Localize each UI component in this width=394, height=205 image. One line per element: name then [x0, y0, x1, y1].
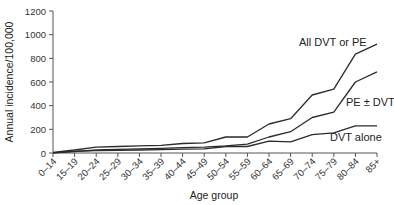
- y-tick-label: 400: [30, 100, 46, 111]
- x-tick-label: 45–49: [183, 156, 209, 182]
- series-line-all-dvt-or-pe: [53, 44, 377, 152]
- x-tick-label: 85+: [363, 155, 382, 174]
- x-tick-label: 75–79: [313, 156, 339, 182]
- x-tick-label: 20–24: [75, 156, 101, 182]
- series-lines: [53, 44, 377, 153]
- series-label-pe: PE ± DVT: [346, 96, 394, 108]
- series-label-all: All DVT or PE: [299, 36, 367, 48]
- y-tick-label: 0: [41, 148, 46, 159]
- x-tick-label: 55–59: [226, 156, 252, 182]
- x-axis: 0–1415–1920–2425–2930–3435–3940–4445–495…: [36, 153, 383, 182]
- x-tick-label: 65–69: [270, 156, 296, 182]
- incidence-line-chart: 020040060080010001200 0–1415–1920–2425–2…: [0, 0, 394, 205]
- x-tick-label: 60–64: [248, 156, 274, 182]
- x-tick-label: 15–19: [54, 156, 80, 182]
- x-tick-label: 70–74: [291, 156, 317, 182]
- y-tick-label: 600: [30, 77, 46, 88]
- y-tick-label: 1000: [25, 29, 46, 40]
- x-tick-label: 40–44: [162, 156, 188, 182]
- x-tick-label: 80–84: [334, 156, 360, 182]
- y-axis: 020040060080010001200: [25, 6, 53, 159]
- y-tick-label: 200: [30, 124, 46, 135]
- x-tick-label: 30–34: [118, 156, 144, 182]
- series-label-dvt: DVT alone: [330, 131, 382, 143]
- y-tick-label: 1200: [25, 6, 46, 17]
- x-tick-label: 25–29: [97, 156, 123, 182]
- y-tick-label: 800: [30, 53, 46, 64]
- x-axis-title: Age group: [190, 189, 239, 201]
- x-tick-label: 50–54: [205, 156, 231, 182]
- y-axis-title: Annual incidence/100,000: [3, 21, 15, 142]
- series-line-pe-dvt: [53, 72, 377, 153]
- x-tick-label: 35–39: [140, 156, 166, 182]
